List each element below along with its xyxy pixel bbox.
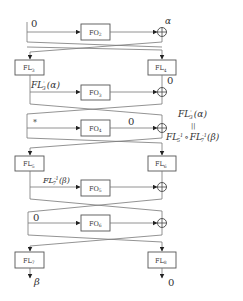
swap-1 xyxy=(27,42,162,59)
round2-right-zero-label: 0 xyxy=(167,75,173,86)
xor-icon xyxy=(158,219,167,228)
round-2: FO3 FL'3(α) 0 xyxy=(30,75,173,104)
annotation-bottom: FL-15∘FL-17(β) xyxy=(165,132,220,143)
output-zero-label: 0 xyxy=(168,277,174,288)
round-4: FO5 FL-17(β) xyxy=(30,171,167,199)
feistel-diagram: FO2 0 α FL3 FL4 FO3 xyxy=(0,0,243,301)
xor-icon xyxy=(158,28,167,37)
xor-icon xyxy=(158,183,167,192)
annotation-top: FL'3(α) xyxy=(177,109,207,120)
swap-5 xyxy=(28,235,162,251)
round-1: FO2 0 α xyxy=(27,16,171,42)
equality-annotation: FL'3(α) || FL-15∘FL-17(β) xyxy=(165,109,220,143)
annotation-equals: || xyxy=(191,122,195,130)
alpha-label: α xyxy=(165,16,171,26)
xor-icon xyxy=(158,88,167,97)
round4-left-label: FL-17(β) xyxy=(42,175,70,186)
round-3: FO4 * 0 xyxy=(27,116,167,138)
round-5: FO6 0 xyxy=(28,212,167,235)
top-left-input-label: 0 xyxy=(31,18,37,29)
fl-layer-2: FL5 FL6 xyxy=(15,156,176,171)
round2-left-label: FL'3(α) xyxy=(30,80,60,91)
fl-layer-3: FL7 FL8 xyxy=(15,252,176,268)
round3-fo-output-label: 0 xyxy=(128,116,134,127)
round3-star-label: * xyxy=(33,118,37,127)
swap-3 xyxy=(27,138,162,155)
round5-left-label: 0 xyxy=(33,212,39,223)
outputs: β 0 xyxy=(30,268,174,288)
output-beta-label: β xyxy=(33,276,40,287)
fl-layer-1: FL3 FL4 xyxy=(15,60,176,75)
